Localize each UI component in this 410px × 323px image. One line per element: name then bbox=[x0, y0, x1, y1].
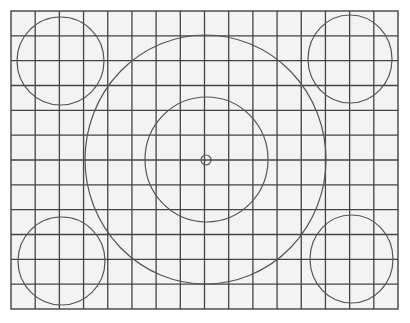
test-pattern bbox=[0, 0, 410, 323]
